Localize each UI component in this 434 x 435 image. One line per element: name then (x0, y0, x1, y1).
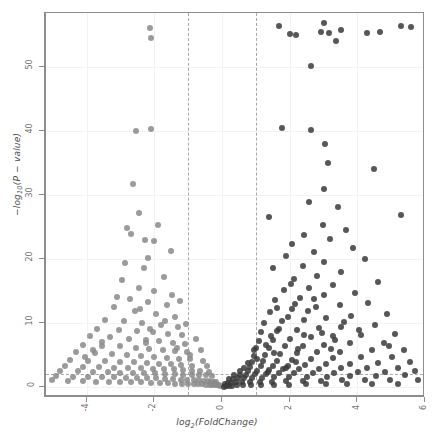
scatter-point (128, 231, 134, 237)
scatter-point (267, 309, 273, 315)
scatter-point (314, 349, 320, 355)
scatter-point (266, 214, 272, 220)
scatter-point (322, 141, 328, 147)
scatter-point (93, 379, 99, 385)
scatter-point (291, 370, 297, 376)
scatter-point (387, 377, 393, 383)
x-tick-label: -2 (143, 403, 163, 412)
scatter-point (102, 358, 108, 364)
y-axis-title: −log10(P − value) (12, 104, 25, 244)
scatter-point (175, 324, 181, 330)
scatter-point (73, 349, 79, 355)
scatter-point (270, 265, 276, 271)
scatter-point (111, 304, 117, 310)
y-tick-label: 20 (0, 252, 34, 261)
scatter-point (133, 345, 139, 351)
x-tick-mark (424, 397, 425, 402)
scatter-point (271, 382, 277, 388)
scatter-point (348, 313, 354, 319)
scatter-point (179, 381, 185, 387)
scatter-point (338, 365, 344, 371)
scatter-point (323, 381, 329, 387)
scatter-point (321, 292, 327, 298)
scatter-point (117, 379, 123, 385)
x-tick-label: 2 (279, 403, 299, 412)
scatter-point (119, 277, 125, 283)
scatter-point (94, 326, 100, 332)
scatter-point (261, 320, 267, 326)
scatter-point (371, 166, 377, 172)
scatter-point (375, 279, 381, 285)
scatter-point (281, 287, 287, 293)
scatter-point (338, 269, 344, 275)
scatter-point (174, 345, 180, 351)
scatter-point (99, 374, 105, 380)
scatter-point (147, 326, 153, 332)
scatter-point (126, 336, 132, 342)
scatter-point (121, 318, 127, 324)
scatter-point (148, 380, 154, 386)
x-tick-mark (86, 397, 87, 402)
scatter-point (347, 340, 353, 346)
scatter-point (311, 296, 317, 302)
scatter-point (148, 35, 154, 41)
scatter-point (177, 298, 183, 304)
scatter-point (268, 333, 274, 339)
y-tick-mark (39, 386, 44, 387)
scatter-point (321, 186, 327, 192)
scatter-point (395, 365, 401, 371)
scatter-point (328, 346, 334, 352)
scatter-point (151, 288, 157, 294)
x-axis-title-text: log2(FoldChange) (176, 417, 257, 427)
scatter-point (306, 285, 312, 291)
scatter-point (330, 282, 336, 288)
scatter-point (240, 382, 246, 388)
scatter-point (105, 369, 111, 375)
scatter-point (308, 334, 314, 340)
x-tick-mark (221, 397, 222, 402)
scatter-point (271, 350, 277, 356)
scatter-point (347, 361, 353, 367)
scatter-point (117, 343, 123, 349)
volcano-plot-figure: 01020304050 -4-20246 log2(FoldChange) −l… (0, 0, 434, 435)
scatter-point (265, 369, 271, 375)
scatter-point (248, 382, 254, 388)
scatter-point (276, 326, 282, 332)
scatter-point (156, 338, 162, 344)
scatter-point (111, 365, 117, 371)
scatter-point (164, 355, 170, 361)
scatter-point (369, 347, 375, 353)
y-tick-label-text: 0 (27, 382, 36, 387)
scatter-point (151, 238, 157, 244)
scatter-point (401, 347, 407, 353)
scatter-point (90, 369, 96, 375)
scatter-point (256, 338, 262, 344)
scatter-point (136, 210, 142, 216)
y-tick-label-text: 20 (24, 252, 33, 262)
scatter-point (206, 369, 212, 375)
x-tick-label: 6 (414, 403, 434, 412)
scatter-point (130, 181, 136, 187)
scatter-point (382, 369, 388, 375)
x-tick-label-text: 6 (420, 405, 429, 410)
x-tick-mark (289, 397, 290, 402)
scatter-point (179, 332, 185, 338)
scatter-point (398, 23, 404, 29)
scatter-point (327, 236, 333, 242)
scatter-point (337, 302, 343, 308)
x-tick-label-text: -4 (81, 404, 90, 412)
scatter-point (99, 339, 105, 345)
scatter-point (279, 318, 285, 324)
scatter-point (124, 225, 130, 231)
scatter-point (364, 365, 370, 371)
y-tick-label-text: 30 (24, 188, 33, 198)
scatter-point (305, 308, 311, 314)
scatter-point (288, 281, 294, 287)
scatter-point (107, 334, 113, 340)
scatter-point (306, 199, 312, 205)
x-tick-mark (153, 397, 154, 402)
scatter-point (182, 341, 188, 347)
scatter-point (352, 290, 358, 296)
scatter-point (310, 370, 316, 376)
scatter-point (286, 382, 292, 388)
